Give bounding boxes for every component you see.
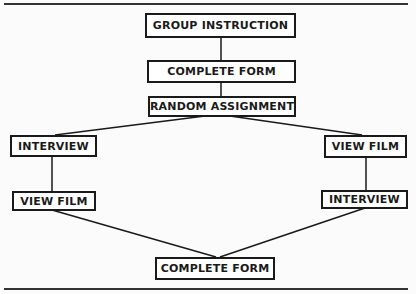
node-group-instruction: GROUP INSTRUCTION (145, 13, 296, 38)
node-right-interview: INTERVIEW (321, 190, 408, 209)
edge-random-to-right-viewfilm (230, 116, 362, 135)
node-right-view-film: VIEW FILM (324, 135, 407, 158)
node-complete-form-bottom: COMPLETE FORM (155, 257, 275, 280)
edge-random-to-left-interview (55, 116, 205, 135)
node-left-interview: INTERVIEW (10, 135, 97, 157)
flowchart-diagram: GROUP INSTRUCTION COMPLETE FORM RANDOM A… (0, 0, 416, 294)
node-random-assignment: RANDOM ASSIGNMENT (148, 96, 296, 117)
edge-right-interview-to-form (220, 208, 365, 257)
node-left-view-film: VIEW FILM (12, 191, 96, 211)
edge-left-viewfilm-to-form (52, 210, 216, 257)
node-complete-form-top: COMPLETE FORM (147, 60, 296, 83)
